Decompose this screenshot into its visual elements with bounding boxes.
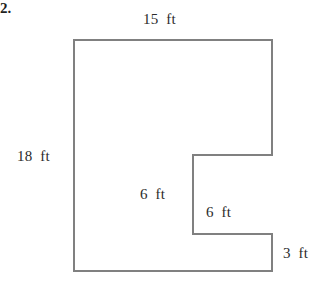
dimension-label-inner-vertical: 6 ft [140,186,165,203]
geometry-figure [0,0,315,289]
dimension-label-inner-horizontal: 6 ft [206,204,231,221]
dimension-label-left: 18 ft [17,148,50,165]
dimension-label-top: 15 ft [143,11,176,28]
figure-page: 2. 15 ft 18 ft 6 ft 6 ft 3 ft [0,0,315,289]
polygon-outline [74,40,272,271]
dimension-label-lower-right-step: 3 ft [283,245,308,262]
